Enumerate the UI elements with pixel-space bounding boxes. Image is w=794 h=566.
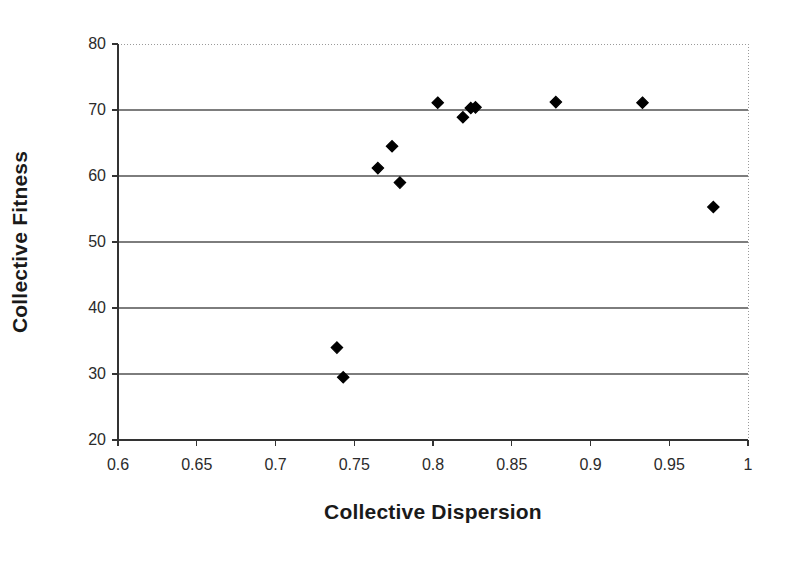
y-tick-label: 50	[60, 233, 106, 251]
x-tick-label: 0.75	[339, 456, 370, 474]
y-tick-label: 30	[60, 365, 106, 383]
y-tick-label: 80	[60, 35, 106, 53]
x-tick-label: 1	[744, 456, 753, 474]
chart-canvas	[0, 0, 794, 566]
y-tick-label: 70	[60, 101, 106, 119]
x-tick-label: 0.95	[654, 456, 685, 474]
x-tick-label: 0.85	[496, 456, 527, 474]
x-tick-label: 0.6	[107, 456, 129, 474]
y-axis-title-container: Collective Fitness	[0, 44, 40, 440]
x-tick-label: 0.9	[579, 456, 601, 474]
y-axis-title: Collective Fitness	[8, 151, 32, 333]
scatter-chart-figure: 203040506070800.60.650.70.750.80.850.90.…	[0, 0, 794, 566]
x-axis-title: Collective Dispersion	[118, 500, 748, 524]
x-tick-label: 0.65	[181, 456, 212, 474]
x-tick-label: 0.8	[422, 456, 444, 474]
y-tick-label: 40	[60, 299, 106, 317]
x-tick-label: 0.7	[264, 456, 286, 474]
y-tick-label: 20	[60, 431, 106, 449]
y-tick-label: 60	[60, 167, 106, 185]
